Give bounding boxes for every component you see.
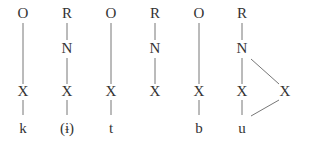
rhyme-column-3: R N X u X	[237, 5, 291, 136]
rhyme-column-2: R N X	[150, 5, 161, 99]
onset-column-2: O X t	[106, 5, 117, 136]
onset-column-3: O X b	[194, 5, 205, 136]
segment: (ɨ)	[60, 120, 74, 137]
segment: k	[19, 120, 27, 136]
rhyme-node: R	[237, 5, 247, 21]
nucleus-node: N	[150, 40, 161, 56]
skeleton-x: X	[18, 83, 29, 99]
nucleus-node: N	[62, 40, 73, 56]
segment: t	[109, 120, 114, 136]
onset-node: O	[194, 5, 205, 21]
segment: u	[238, 120, 246, 136]
onset-column-1: O X k	[18, 5, 29, 136]
syllable-diagram: O X k R N X (ɨ) O X t R N X O X b	[0, 0, 320, 143]
rhyme-node: R	[62, 5, 72, 21]
skeleton-x: X	[194, 83, 205, 99]
skeleton-x: X	[150, 83, 161, 99]
skeleton-x: X	[237, 83, 248, 99]
segment: b	[195, 120, 203, 136]
onset-node: O	[106, 5, 117, 21]
nucleus-node: N	[237, 40, 248, 56]
skeleton-x: X	[62, 83, 73, 99]
skeleton-x: X	[106, 83, 117, 99]
rhyme-column-1: R N X (ɨ)	[60, 5, 74, 137]
extra-skeleton-x: X	[280, 83, 291, 99]
onset-node: O	[18, 5, 29, 21]
rhyme-node: R	[150, 5, 160, 21]
